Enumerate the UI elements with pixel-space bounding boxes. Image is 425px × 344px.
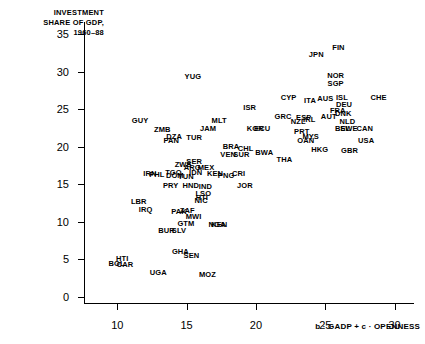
data-point-label: BWA — [255, 150, 273, 158]
y-tick-label: 20 — [57, 141, 69, 153]
y-tick-label: 5 — [63, 253, 69, 265]
y-tick: 15 — [78, 184, 84, 185]
y-tick-label: 10 — [57, 216, 69, 228]
data-point-label: SGP — [328, 80, 344, 88]
x-tick: 20 — [256, 304, 257, 310]
y-tick: 35 — [78, 34, 84, 35]
data-point-label: ECU — [254, 125, 270, 133]
y-tick: 30 — [78, 72, 84, 73]
data-point-label: SWE — [340, 126, 357, 134]
x-axis-label: b · GADP + c · OPENNESS — [245, 322, 420, 331]
data-point-label: YUG — [185, 73, 202, 81]
data-point-label: ITA — [304, 97, 316, 105]
data-point-label: NIC — [195, 198, 208, 206]
y-axis-line — [84, 22, 85, 304]
y-tick: 20 — [78, 147, 84, 148]
data-point-label: IRQ — [139, 206, 153, 214]
data-point-label: UGA — [150, 270, 167, 278]
data-point-label: TUN — [178, 173, 194, 181]
scatter-chart: INVESTMENT SHARE OF GDP, 1960–88 0510152… — [0, 0, 425, 344]
y-tick-label: 0 — [63, 291, 69, 303]
data-point-label: SEN — [184, 252, 200, 260]
data-point-label: USA — [358, 137, 374, 145]
y-tick: 25 — [78, 109, 84, 110]
x-tick: 15 — [187, 304, 188, 310]
data-point-label: JOR — [237, 183, 253, 191]
y-tick-label: 30 — [57, 66, 69, 78]
data-point-label: GRC — [274, 114, 291, 122]
y-tick: 0 — [78, 297, 84, 298]
x-tick: 10 — [117, 304, 118, 310]
data-point-label: OAN — [297, 137, 314, 145]
data-point-label: THA — [276, 156, 292, 164]
x-tick: 30 — [395, 304, 396, 310]
data-point-label: NZL — [291, 118, 306, 126]
data-point-label: HKG — [311, 147, 328, 155]
data-point-label: SUR — [233, 151, 249, 159]
data-point-label: CHE — [371, 94, 387, 102]
y-tick-label: 15 — [57, 178, 69, 190]
data-point-label: JAM — [200, 125, 216, 133]
data-point-label: CRI — [232, 170, 245, 178]
data-point-label: FIN — [332, 45, 344, 53]
data-point-label: PRY — [163, 182, 178, 190]
y-tick-label: 35 — [57, 28, 69, 40]
y-tick-label: 25 — [57, 103, 69, 115]
x-tick-label: 10 — [111, 319, 123, 331]
y-tick: 10 — [78, 222, 84, 223]
data-point-label: GBR — [341, 147, 358, 155]
data-point-label: TUR — [186, 135, 202, 143]
data-point-label: CAR — [117, 261, 134, 269]
data-point-label: CYP — [281, 94, 297, 102]
data-point-label: CAN — [356, 126, 373, 134]
data-point-label: MOZ — [199, 271, 216, 279]
y-tick: 5 — [78, 259, 84, 260]
plot-area: 05101520253035 1015202530 FINJPNNORSGPYU… — [84, 22, 414, 304]
x-axis-line — [84, 303, 414, 304]
x-tick: 25 — [325, 304, 326, 310]
data-point-label: KEN — [211, 222, 227, 230]
data-point-label: GUY — [132, 117, 149, 125]
data-point-label: PAN — [164, 137, 180, 145]
data-point-label: PHL — [149, 171, 164, 179]
data-point-label: SLV — [172, 228, 186, 236]
data-point-label: AUS — [317, 96, 333, 104]
x-tick-label: 15 — [180, 319, 192, 331]
data-point-label: ISR — [243, 104, 256, 112]
data-point-label: JPN — [309, 51, 324, 59]
